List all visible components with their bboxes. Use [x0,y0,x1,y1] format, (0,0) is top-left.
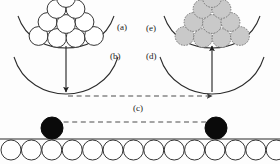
substrate-circle [164,140,184,160]
cluster-assembly-diagram [0,0,280,164]
substrate-circle [83,140,103,160]
deposited-particle-left [41,117,63,139]
substrate-circle [246,140,266,160]
substrate-circle [123,140,143,160]
label-e: (e) [146,24,156,33]
substrate-circle [1,140,21,160]
substrate-circle [225,140,245,160]
substrate-circle [185,140,205,160]
substrate-circle [144,140,164,160]
label-b: (b) [110,52,121,61]
label-c: (c) [133,104,143,113]
substrate-circle [62,140,82,160]
substrate-circle [21,140,41,160]
label-d: (d) [146,52,157,61]
label-a: (a) [117,23,127,32]
substrate-circle [103,140,123,160]
substrate-circle [205,140,225,160]
substrate-circle [42,140,62,160]
deposited-particle-right [205,117,227,139]
